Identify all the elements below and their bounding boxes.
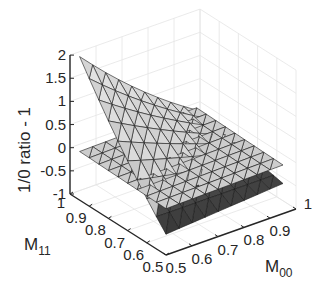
z-tick-label: 1.5 [45, 69, 66, 86]
x-tick-label: 0.9 [270, 222, 291, 239]
x-tick-label: 0.7 [218, 241, 239, 258]
y-tick-label: 0.6 [123, 246, 144, 263]
x-tick-label: 0.5 [166, 259, 187, 276]
y-tick-label: 0.8 [85, 221, 106, 238]
surfaces [80, 57, 283, 235]
z-tick-label: 1 [58, 92, 66, 109]
x-axis-label: M00 [265, 257, 293, 280]
y-axis-label: M11 [24, 235, 51, 258]
y-tick-label: 1 [57, 194, 65, 211]
y-tick-label: 0.5 [143, 258, 164, 275]
y-tick-label: 0.7 [104, 234, 125, 251]
surface-plot-3d: -1-0.500.511.520.50.60.70.80.910.50.60.7… [0, 0, 322, 293]
z-tick-label: -0.5 [40, 162, 66, 179]
x-tick-label: 0.6 [192, 250, 213, 267]
x-tick-label: 0.8 [244, 231, 265, 248]
z-tick-label: 2 [58, 46, 66, 63]
y-tick-label: 0.9 [66, 209, 87, 226]
z-axis-label: 1/0 ratio - 1 [15, 107, 34, 193]
z-tick-label: 0.5 [45, 116, 66, 133]
x-tick-label: 1 [304, 195, 312, 212]
z-tick-label: 0 [58, 139, 66, 156]
